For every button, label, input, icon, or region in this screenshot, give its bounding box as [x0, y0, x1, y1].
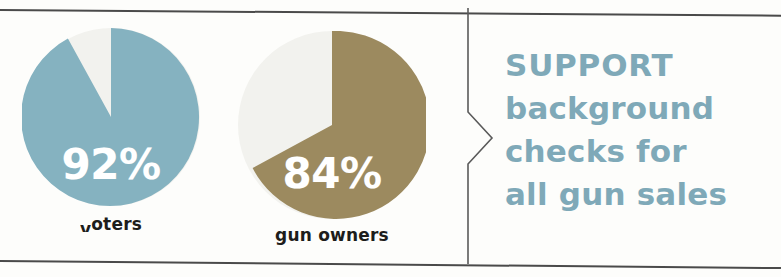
- chart-gun-owners: 84% gun owners: [238, 31, 426, 219]
- headline-line-1: SUPPORT: [505, 44, 773, 87]
- chevron-divider-icon: [452, 8, 498, 264]
- headline-line-2: background: [505, 87, 773, 130]
- pie-voters-caption-initial: v: [80, 219, 91, 232]
- pie-voters-caption: voters: [22, 214, 200, 234]
- pie-voters-caption-rest: oters: [91, 214, 142, 234]
- headline-text: SUPPORT background checks for all gun sa…: [505, 44, 773, 216]
- pie-owners-caption: gun owners: [238, 225, 426, 245]
- pie-owners-value-label: 84%: [238, 149, 426, 198]
- headline-line-4: all gun sales: [505, 173, 773, 216]
- chart-voters: 92% voters: [22, 28, 200, 206]
- headline-line-3: checks for: [505, 130, 773, 173]
- top-divider-rule: [0, 9, 781, 17]
- section-divider: [452, 8, 498, 264]
- chevron-divider-path: [468, 8, 492, 264]
- infographic-panel: 92% voters 84% gun owners SUPPORT backgr…: [0, 0, 781, 277]
- bottom-divider-rule: [0, 260, 781, 269]
- pie-chart-gun-owners: 84%: [238, 31, 426, 219]
- pie-voters-value-label: 92%: [22, 140, 200, 189]
- pie-chart-voters: 92%: [22, 28, 200, 206]
